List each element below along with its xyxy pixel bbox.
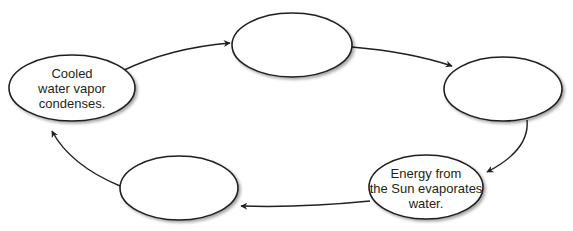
node-left-label: Cooled water vapor condenses. bbox=[12, 60, 132, 116]
arrow-right-to-bottom-right bbox=[487, 120, 527, 172]
arrow-top-to-right bbox=[352, 47, 452, 66]
arrow-bottom-right-to-bottom-left bbox=[241, 201, 370, 206]
node-bottom-right-line-3: water. bbox=[409, 196, 444, 211]
node-left-line-1: Cooled bbox=[51, 66, 92, 81]
node-bottom-right-label: Energy from the Sun evaporates water. bbox=[366, 160, 486, 216]
node-bottom-left bbox=[120, 156, 238, 220]
arrow-left-to-top bbox=[122, 43, 230, 71]
node-bottom-right-line-2: the Sun evaporates bbox=[370, 181, 483, 196]
arrow-bottom-left-to-left bbox=[52, 131, 120, 186]
node-right bbox=[444, 57, 562, 121]
node-bottom-right-line-1: Energy from bbox=[391, 166, 462, 181]
node-left-line-2: water vapor bbox=[38, 81, 106, 96]
node-left-line-3: condenses. bbox=[39, 96, 106, 111]
node-top bbox=[232, 13, 352, 77]
